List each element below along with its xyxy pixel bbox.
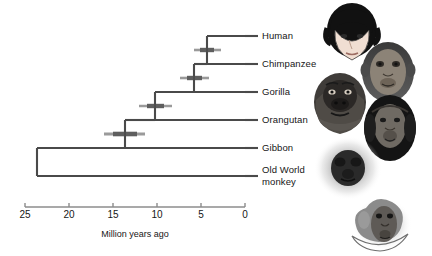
- tip-label-old-world-monkey-line1: Old World: [262, 164, 305, 175]
- tip-label-orangutan: Orangutan: [262, 114, 308, 125]
- tip-label-gorilla: Gorilla: [262, 86, 290, 97]
- axis-tick-label-0: 0: [235, 209, 255, 220]
- error-bar-hc-gorilla: [180, 72, 209, 84]
- tip-label-chimpanzee: Chimpanzee: [262, 58, 316, 69]
- tip-label-old-world-monkey-line2: monkey: [262, 176, 296, 187]
- axis-tick-label-15: 15: [103, 209, 123, 220]
- tip-label-gibbon: Gibbon: [262, 142, 293, 153]
- time-axis: [25, 203, 245, 207]
- axis-tick-label-20: 20: [59, 209, 79, 220]
- tip-leaders: [245, 36, 258, 176]
- error-bar-hcg-orangutan: [139, 100, 172, 112]
- axis-tick-label-25: 25: [15, 209, 35, 220]
- tip-label-human: Human: [262, 30, 293, 41]
- axis-tick-label-10: 10: [147, 209, 167, 220]
- axis-title: Million years ago: [75, 229, 195, 239]
- axis-tick-label-5: 5: [191, 209, 211, 220]
- error-bar-apes-gibbon: [104, 128, 145, 140]
- error-bar-human-chimp: [194, 44, 221, 56]
